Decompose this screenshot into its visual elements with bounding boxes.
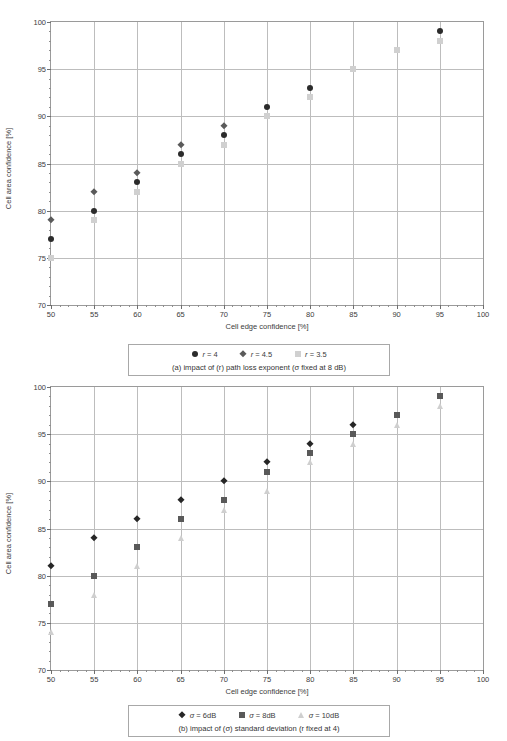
data-point-square xyxy=(307,94,313,100)
x-axis-tick-label: 75 xyxy=(263,310,271,319)
data-point-circle xyxy=(221,132,227,138)
data-point-square xyxy=(178,161,184,167)
data-point-diamond xyxy=(134,515,142,523)
x-axis-minor-tick xyxy=(362,670,363,672)
x-axis-minor-tick xyxy=(276,305,277,307)
legend-item: r = 3.5 xyxy=(294,350,326,359)
x-axis-minor-tick xyxy=(388,305,389,307)
x-axis-tick-label: 95 xyxy=(436,310,444,319)
gridline-vertical xyxy=(94,387,95,670)
x-axis-minor-tick xyxy=(155,670,156,672)
x-axis-tick xyxy=(483,305,484,309)
y-axis-title-a: Cell area confidence [%] xyxy=(4,108,13,228)
y-axis-minor-tick xyxy=(49,661,51,662)
x-axis-tick xyxy=(310,305,311,309)
y-axis-tick-label: 70 xyxy=(38,666,46,675)
x-axis-minor-tick xyxy=(466,305,467,307)
x-axis-minor-tick xyxy=(448,305,449,307)
y-axis-minor-tick xyxy=(49,425,51,426)
data-point-square xyxy=(134,544,140,550)
x-axis-minor-tick xyxy=(379,670,380,672)
x-axis-tick-label: 70 xyxy=(220,675,228,684)
x-axis-minor-tick xyxy=(336,670,337,672)
data-point-circle xyxy=(48,236,54,242)
x-axis-minor-tick xyxy=(448,670,449,672)
gridline-vertical xyxy=(224,22,225,305)
y-axis-minor-tick xyxy=(49,642,51,643)
x-axis-minor-tick xyxy=(68,670,69,672)
y-axis-minor-tick xyxy=(49,585,51,586)
data-point-circle xyxy=(307,85,313,91)
x-axis-minor-tick xyxy=(77,670,78,672)
figure-a: 70758085909510050556065707580859095100 C… xyxy=(0,0,507,380)
x-axis-minor-tick xyxy=(423,305,424,307)
y-axis-minor-tick xyxy=(49,126,51,127)
x-axis-minor-tick xyxy=(232,305,233,307)
y-axis-tick xyxy=(47,387,51,388)
figure-b: 70758085909510050556065707580859095100 C… xyxy=(0,380,507,741)
y-axis-minor-tick xyxy=(49,462,51,463)
y-axis-minor-tick xyxy=(49,538,51,539)
data-point-triangle xyxy=(350,441,356,447)
y-axis-minor-tick xyxy=(49,453,51,454)
x-axis-minor-tick xyxy=(319,670,320,672)
x-axis-minor-tick xyxy=(457,670,458,672)
x-axis-tick xyxy=(137,670,138,674)
x-axis-minor-tick xyxy=(474,670,475,672)
x-axis-tick xyxy=(137,305,138,309)
y-axis-minor-tick xyxy=(49,519,51,520)
y-axis-minor-tick xyxy=(49,60,51,61)
legend-swatch-circle-icon xyxy=(191,351,198,358)
plot-a: 70758085909510050556065707580859095100 C… xyxy=(50,21,484,306)
plot-b: 70758085909510050556065707580859095100 C… xyxy=(50,386,484,671)
x-axis-tick-label: 90 xyxy=(392,675,400,684)
x-axis-minor-tick xyxy=(327,305,328,307)
y-axis-tick-label: 95 xyxy=(38,430,46,439)
y-axis-title-b: Cell area confidence [%] xyxy=(4,473,13,593)
x-axis-minor-tick xyxy=(60,305,61,307)
data-point-diamond xyxy=(47,562,55,570)
x-axis-tick xyxy=(51,305,52,309)
x-axis-tick-label: 80 xyxy=(306,310,314,319)
x-axis-tick-label: 85 xyxy=(349,675,357,684)
x-axis-tick xyxy=(353,670,354,674)
data-point-diamond xyxy=(90,534,98,542)
x-axis-minor-tick xyxy=(77,305,78,307)
x-axis-tick-label: 60 xyxy=(133,675,141,684)
legend-label: σ = 8dB xyxy=(249,711,275,720)
x-axis-tick-label: 55 xyxy=(90,675,98,684)
y-axis-tick-label: 85 xyxy=(38,524,46,533)
x-axis-minor-tick xyxy=(414,305,415,307)
gridline-vertical xyxy=(440,387,441,670)
x-axis-minor-tick xyxy=(276,670,277,672)
legend-b: σ = 6dBσ = 8dBσ = 10dB (b) impact of (σ)… xyxy=(128,705,390,737)
gridline-vertical xyxy=(397,22,398,305)
x-axis-tick-label: 65 xyxy=(176,675,184,684)
y-axis-tick xyxy=(47,529,51,530)
x-axis-minor-tick xyxy=(362,305,363,307)
data-point-square xyxy=(394,412,400,418)
x-axis-minor-tick xyxy=(431,670,432,672)
data-point-triangle xyxy=(48,629,54,635)
y-axis-minor-tick xyxy=(49,406,51,407)
y-axis-tick xyxy=(47,211,51,212)
legend-item: r = 4.5 xyxy=(240,350,272,359)
data-point-diamond xyxy=(47,216,55,224)
x-axis-minor-tick xyxy=(379,305,380,307)
y-axis-tick xyxy=(47,481,51,482)
y-axis-minor-tick xyxy=(49,491,51,492)
x-axis-tick-label: 80 xyxy=(306,675,314,684)
x-axis-tick-label: 50 xyxy=(47,310,55,319)
data-point-square xyxy=(437,393,443,399)
x-axis-minor-tick xyxy=(189,305,190,307)
x-axis-minor-tick xyxy=(198,670,199,672)
gridline-vertical xyxy=(224,387,225,670)
x-axis-tick xyxy=(397,305,398,309)
y-axis-tick-label: 75 xyxy=(38,618,46,627)
data-point-diamond xyxy=(306,440,314,448)
y-axis-tick-label: 70 xyxy=(38,301,46,310)
y-axis-tick-label: 90 xyxy=(38,112,46,121)
data-point-diamond xyxy=(90,188,98,196)
x-axis-minor-tick xyxy=(232,670,233,672)
y-axis-minor-tick xyxy=(49,557,51,558)
